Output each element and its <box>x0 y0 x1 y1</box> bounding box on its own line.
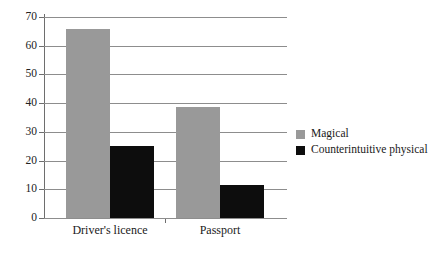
bar-magical-0 <box>66 29 110 219</box>
y-tick-label: 20 <box>26 155 38 167</box>
plot-area: 706050403020100 <box>44 17 287 218</box>
y-tick-mark <box>39 132 44 133</box>
y-tick-mark <box>39 17 44 18</box>
legend-label-magical: Magical <box>311 128 349 140</box>
y-tick-mark <box>39 103 44 104</box>
y-tick-mark <box>39 161 44 162</box>
y-tick-label: 50 <box>26 69 38 81</box>
x-axis-mid-tick <box>165 219 166 223</box>
bar-counterintuitive-1 <box>220 185 264 218</box>
legend: Magical Counterintuitive physical <box>296 126 428 158</box>
legend-item-counterintuitive-physical: Counterintuitive physical <box>296 142 428 158</box>
y-tick-mark <box>39 46 44 47</box>
y-tick-label: 30 <box>26 126 38 138</box>
y-tick-label: 70 <box>26 11 38 23</box>
bar-counterintuitive-0 <box>110 146 154 218</box>
x-category-label-1: Passport <box>140 224 300 237</box>
y-tick-label: 60 <box>26 40 38 52</box>
bar-magical-1 <box>176 107 220 218</box>
legend-label-counterintuitive-physical: Counterintuitive physical <box>311 144 428 156</box>
y-tick-label: 0 <box>31 212 37 224</box>
bar-chart: 706050403020100 Driver's licencePassport… <box>0 0 446 254</box>
y-tick-mark <box>39 74 44 75</box>
legend-item-magical: Magical <box>296 126 428 142</box>
y-tick-mark <box>39 218 44 219</box>
legend-swatch-icon-counterintuitive-physical <box>296 146 305 155</box>
legend-swatch-icon-magical <box>296 130 305 139</box>
y-tick-label: 10 <box>26 184 38 196</box>
y-tick-mark <box>39 189 44 190</box>
gridline <box>44 17 287 18</box>
y-tick-label: 40 <box>26 97 38 109</box>
